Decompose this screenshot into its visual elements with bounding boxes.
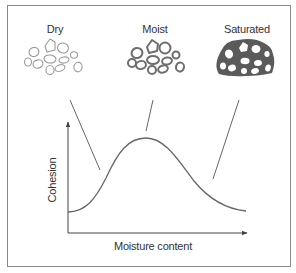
- dry-pebbles-icon: [25, 39, 84, 75]
- cohesion-curve: [68, 138, 246, 212]
- dry-label: Dry: [47, 23, 64, 35]
- y-axis-label: Cohesion: [46, 157, 58, 202]
- dry-pointer-line: [70, 100, 100, 170]
- saturated-pebbles-icon: [216, 39, 274, 76]
- cohesion-moisture-diagram: Dry Moist Saturated: [0, 0, 296, 273]
- saturated-pointer-line: [213, 100, 239, 179]
- x-axis-label: Moisture content: [114, 240, 192, 252]
- moist-pebbles-icon: [128, 40, 185, 74]
- saturated-label: Saturated: [224, 23, 270, 35]
- moist-label: Moist: [142, 23, 167, 35]
- moist-pointer-line: [146, 100, 153, 131]
